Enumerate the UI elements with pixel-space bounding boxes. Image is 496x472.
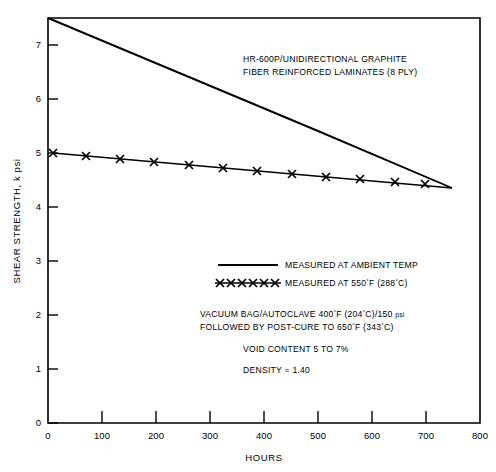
x-axis-title: HOURS (245, 452, 282, 463)
header-annotation-line-2: FIBER REINFORCED LAMINATES (8 PLY) (243, 67, 417, 77)
data-point-marker (421, 180, 429, 188)
y-axis-tick-labels: 0 1 2 3 4 5 6 7 (36, 39, 41, 428)
process-line1-psi: psi (395, 311, 404, 319)
process-line1-part-b: F (204 (336, 309, 362, 319)
y-tick-label-1: 1 (36, 363, 41, 374)
process-line1-part-a: VACUUM BAG/AUTOCLAVE 400 (200, 309, 334, 319)
y-tick-label-5: 5 (36, 147, 41, 158)
y-tick-label-7: 7 (36, 39, 41, 50)
process-line2-part-a: FOLLOWED BY POST-CURE TO 650 (200, 322, 352, 332)
y-tick-label-4: 4 (36, 201, 41, 212)
legend-label-550f-part-b: F (288 (369, 278, 395, 288)
x-axis-ticks (102, 411, 426, 423)
legend-label-ambient: MEASURED AT AMBIENT TEMP (285, 260, 418, 270)
legend-label-550f: MEASURED AT 550°F (288°C) (285, 277, 408, 288)
plot-frame (48, 18, 480, 423)
shear-strength-vs-hours-chart: 0 1 2 3 4 5 6 7 0 100 200 300 400 500 (0, 0, 496, 472)
process-line1-part-c: C)/150 (365, 309, 395, 319)
chart-legend: MEASURED AT AMBIENT TEMP MEASURED AT 550… (215, 260, 418, 288)
x-tick-label-300: 300 (202, 430, 218, 441)
legend-label-550f-part-a: MEASURED AT 550 (285, 278, 366, 288)
density-annotation: DENSITY = 1.40 (243, 365, 310, 375)
process-annotation: VACUUM BAG/AUTOCLAVE 400°F (204°C)/150 p… (200, 308, 405, 375)
x-tick-label-100: 100 (94, 430, 110, 441)
x-tick-label-400: 400 (256, 430, 272, 441)
y-tick-label-3: 3 (36, 255, 41, 266)
process-annotation-line-1: VACUUM BAG/AUTOCLAVE 400°F (204°C)/150 p… (200, 308, 405, 319)
series-ambient-temp-line (48, 18, 452, 188)
x-tick-label-500: 500 (310, 430, 326, 441)
process-line2-part-c: C) (384, 322, 394, 332)
chart-figure: 0 1 2 3 4 5 6 7 0 100 200 300 400 500 (0, 0, 496, 472)
process-line2-part-b: F (343 (355, 322, 381, 332)
y-tick-label-2: 2 (36, 309, 41, 320)
x-axis-tick-labels: 0 100 200 300 400 500 600 700 800 (45, 430, 488, 441)
y-tick-label-0: 0 (36, 417, 41, 428)
y-axis-ticks (48, 45, 58, 423)
x-tick-label-200: 200 (148, 430, 164, 441)
header-annotation: HR-600P/UNIDIRECTIONAL GRAPHITE FIBER RE… (243, 54, 417, 77)
x-tick-label-600: 600 (364, 430, 380, 441)
y-axis-title: SHEAR STRENGTH, k psi (11, 158, 22, 283)
x-tick-label-700: 700 (418, 430, 434, 441)
x-tick-label-0: 0 (45, 430, 50, 441)
process-annotation-line-2: FOLLOWED BY POST-CURE TO 650°F (343°C) (200, 321, 394, 332)
void-content-annotation: VOID CONTENT 5 TO 7% (243, 344, 349, 354)
x-tick-label-800: 800 (472, 430, 488, 441)
header-annotation-line-1: HR-600P/UNIDIRECTIONAL GRAPHITE (243, 54, 407, 64)
legend-label-550f-part-c: C) (398, 278, 408, 288)
data-point-marker (391, 178, 399, 186)
legend-swatch-550f (215, 279, 281, 287)
series-550f-line (53, 153, 452, 188)
y-tick-label-6: 6 (36, 93, 41, 104)
